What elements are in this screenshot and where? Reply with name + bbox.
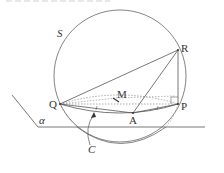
point-r <box>177 49 179 51</box>
point-q <box>59 103 61 105</box>
label-a: A <box>129 114 137 126</box>
segment-qm-dotted <box>60 98 116 104</box>
label-m: M <box>117 88 127 100</box>
segment-ap <box>133 104 178 113</box>
label-p: P <box>181 100 187 112</box>
label-q: Q <box>49 98 57 110</box>
label-plane-alpha: α <box>39 114 45 126</box>
point-p <box>177 103 179 105</box>
label-r: R <box>181 42 189 54</box>
c-pointer-arrowhead <box>91 112 96 118</box>
geometry-diagram: S R Q P A M α C <box>0 0 224 173</box>
c-pointer-arrow <box>88 114 94 145</box>
tick-mark-qa <box>96 106 97 110</box>
sphere-lower-arc <box>77 127 166 144</box>
sphere-hidden-arc-right <box>166 104 178 127</box>
right-angle-mark <box>171 97 178 104</box>
label-circle-c: C <box>88 143 96 155</box>
sphere-s-outline <box>54 10 186 142</box>
label-sphere-s: S <box>57 27 63 39</box>
